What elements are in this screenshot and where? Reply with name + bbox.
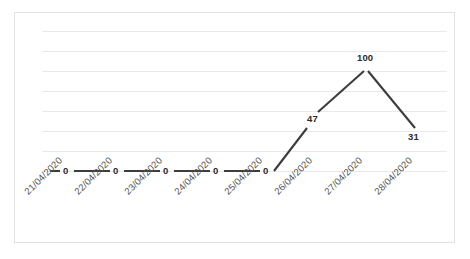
data-label: 0 xyxy=(263,165,268,176)
data-label: 47 xyxy=(307,113,318,124)
data-label: 0 xyxy=(63,165,68,176)
data-label: 0 xyxy=(113,165,118,176)
data-label: 0 xyxy=(213,165,218,176)
data-label: 0 xyxy=(163,165,168,176)
data-label: 31 xyxy=(408,131,419,142)
data-label: 100 xyxy=(357,52,373,63)
chart-plot-area xyxy=(14,12,455,243)
